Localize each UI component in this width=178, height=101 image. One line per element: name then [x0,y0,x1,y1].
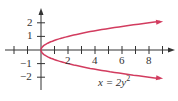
x-tick-label: 6 [119,55,125,66]
x-tick-label: 8 [146,55,152,66]
x-tick-label: 2 [65,55,71,66]
curve-arrow-bottom-icon [156,75,163,80]
equation-text: x = 2y [98,76,126,88]
x-tick-label: 4 [92,55,98,66]
equation-label: x = 2y2 [98,74,130,88]
y-axis-arrow-icon [39,8,44,15]
curve-arrow-top-icon [156,20,163,25]
x-axis-arrow-icon [168,48,175,53]
equation-exponent: 2 [126,74,130,83]
y-tick-label: 2 [27,17,33,28]
y-tick-label: −1 [20,58,32,69]
y-tick-label: −2 [20,71,32,82]
y-tick-label: 1 [27,30,33,41]
